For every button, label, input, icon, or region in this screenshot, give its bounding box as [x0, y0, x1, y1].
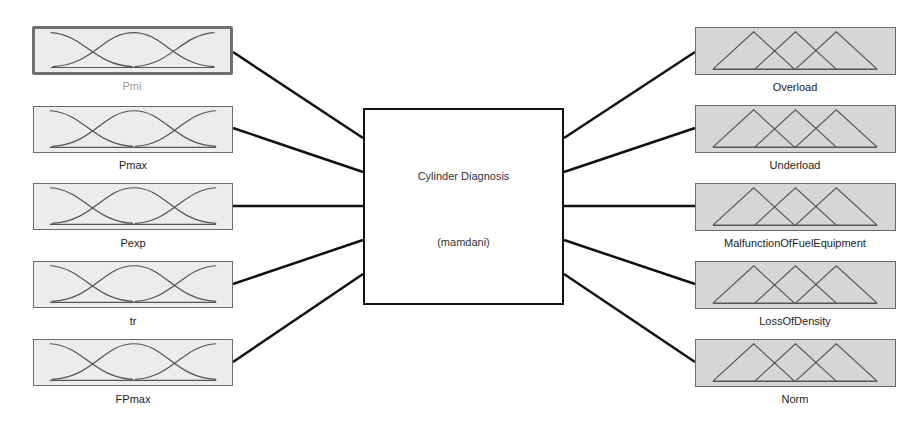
output-label-loss-of-density: LossOfDensity [675, 315, 915, 327]
triangular-mf-icon [696, 106, 895, 152]
input-variable-pmax[interactable] [33, 106, 233, 153]
input-label-pmax: Pmax [13, 159, 253, 171]
input-label-tr: tr [13, 315, 253, 327]
output-variable-malfunction-of-fuel-equipment[interactable] [695, 183, 896, 231]
system-type: (mamdani) [365, 236, 562, 248]
gaussian-mf-icon [34, 340, 232, 385]
gaussian-mf-icon [34, 184, 232, 229]
triangular-mf-icon [696, 340, 895, 386]
fis-system-block[interactable]: Cylinder Diagnosis (mamdani) [363, 108, 564, 305]
output-variable-overload[interactable] [695, 27, 896, 75]
output-variable-norm[interactable] [695, 339, 896, 387]
system-name: Cylinder Diagnosis [365, 170, 562, 182]
input-variable-pmi[interactable] [32, 26, 233, 75]
input-variable-tr[interactable] [33, 261, 233, 308]
input-label-pmi: Pmi [12, 80, 252, 92]
triangular-mf-icon [696, 262, 895, 308]
input-label-pexp: Pexp [13, 237, 253, 249]
fis-editor-diagram: Pmi Pmax Pexp [0, 0, 924, 425]
gaussian-mf-icon [34, 107, 232, 152]
input-variable-fpmax[interactable] [33, 339, 233, 386]
output-label-overload: Overload [675, 81, 915, 93]
output-variable-underload[interactable] [695, 105, 896, 153]
output-label-underload: Underload [675, 159, 915, 171]
input-label-fpmax: FPmax [13, 393, 253, 405]
gaussian-mf-icon [34, 262, 232, 307]
output-variable-loss-of-density[interactable] [695, 261, 896, 309]
triangular-mf-icon [696, 28, 895, 74]
wire-input-1 [233, 52, 363, 138]
gaussian-mf-icon [35, 29, 230, 72]
input-variable-pexp[interactable] [33, 183, 233, 230]
output-label-norm: Norm [675, 393, 915, 405]
wire-output-1 [564, 52, 695, 138]
output-label-malfunction-of-fuel-equipment: MalfunctionOfFuelEquipment [675, 237, 915, 249]
triangular-mf-icon [696, 184, 895, 230]
